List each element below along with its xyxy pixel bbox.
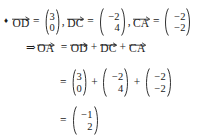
- column-vector-od-entries: 3 0: [49, 11, 56, 33]
- implies-operator: ⇒: [26, 42, 36, 54]
- vector-component-bottom: 4: [118, 83, 123, 94]
- vector-symbol-dc: DC: [100, 40, 116, 55]
- vector-component-top: −1: [81, 109, 92, 120]
- column-vector-od: 3 0: [44, 9, 61, 35]
- equals-operator: =: [60, 77, 67, 89]
- right-paren-icon: [94, 106, 100, 135]
- vector-component-top: −2: [174, 11, 185, 22]
- column-vector-dc: −2 4: [98, 8, 127, 36]
- vector-symbol-ca-label: CA: [129, 42, 145, 54]
- vector-symbol-ca-label: CA: [133, 17, 149, 29]
- math-solution-sheet: ♦ OD = 3 0 , DC =: [0, 0, 212, 137]
- bullet-marker: ♦: [4, 17, 8, 25]
- equation-line-1: ♦ OD = 3 0 , DC =: [4, 8, 193, 36]
- vector-component-bottom: 0: [77, 83, 82, 94]
- equation-line-2: ⇒ OA = OD + DC + CA: [26, 40, 146, 55]
- vector-component-bottom: 4: [114, 22, 119, 33]
- equals-operator: =: [33, 16, 40, 28]
- vector-component-bottom: 0: [50, 22, 55, 33]
- equation-line-4-result: = −1 2: [57, 106, 101, 135]
- column-vector-ca-entries: −2 −2: [169, 11, 186, 33]
- column-vector-term-3: −2 −2: [144, 68, 173, 97]
- vector-component-top: −2: [108, 11, 119, 22]
- vector-component-bottom: 2: [87, 121, 92, 132]
- vector-component-top: −2: [112, 71, 123, 82]
- column-vector-dc-entries: −2 4: [104, 11, 121, 33]
- equals-operator: =: [153, 16, 160, 28]
- column-vector-term-1: 3 0: [71, 69, 88, 96]
- comma-separator: ,: [128, 16, 131, 28]
- vector-symbol-ca: CA: [129, 40, 145, 55]
- column-vector-result-entries: −1 2: [77, 109, 94, 131]
- vector-component-top: 3: [50, 11, 55, 22]
- vector-symbol-od: OD: [13, 15, 30, 30]
- plus-operator: +: [134, 77, 141, 89]
- vector-component-bottom: −2: [155, 83, 166, 94]
- column-vector-result: −1 2: [71, 106, 100, 135]
- right-paren-icon: [167, 68, 173, 97]
- vector-symbol-od-label: OD: [13, 17, 30, 29]
- plus-operator: +: [91, 42, 98, 54]
- equals-operator: =: [87, 16, 94, 28]
- comma-separator: ,: [62, 16, 65, 28]
- column-vector-term-2-entries: −2 4: [107, 71, 124, 93]
- equals-operator: =: [61, 42, 68, 54]
- plus-operator: +: [120, 42, 127, 54]
- vector-symbol-ca: CA: [133, 15, 149, 30]
- column-vector-ca: −2 −2: [163, 8, 192, 36]
- right-paren-icon: [83, 69, 88, 96]
- vector-component-bottom: −2: [174, 22, 185, 33]
- vector-symbol-oa: OA: [37, 40, 54, 55]
- vector-symbol-od: OD: [71, 40, 88, 55]
- column-vector-term-2: −2 4: [101, 68, 130, 97]
- vector-symbol-oa-label: OA: [37, 42, 54, 54]
- plus-operator: +: [91, 77, 98, 89]
- vector-symbol-dc-label: DC: [67, 17, 83, 29]
- right-paren-icon: [186, 8, 192, 36]
- vector-component-top: −2: [155, 71, 166, 82]
- equals-operator: =: [60, 115, 67, 127]
- right-paren-icon: [121, 8, 127, 36]
- column-vector-term-1-entries: 3 0: [76, 71, 83, 93]
- vector-component-top: 3: [77, 71, 82, 82]
- column-vector-term-3-entries: −2 −2: [150, 71, 167, 93]
- equation-line-3: = 3 0 + −2 4 +: [57, 68, 174, 97]
- vector-symbol-dc-label: DC: [100, 42, 116, 54]
- vector-symbol-od-label: OD: [71, 42, 88, 54]
- right-paren-icon: [124, 68, 130, 97]
- vector-symbol-dc: DC: [67, 15, 83, 30]
- right-paren-icon: [56, 9, 61, 35]
